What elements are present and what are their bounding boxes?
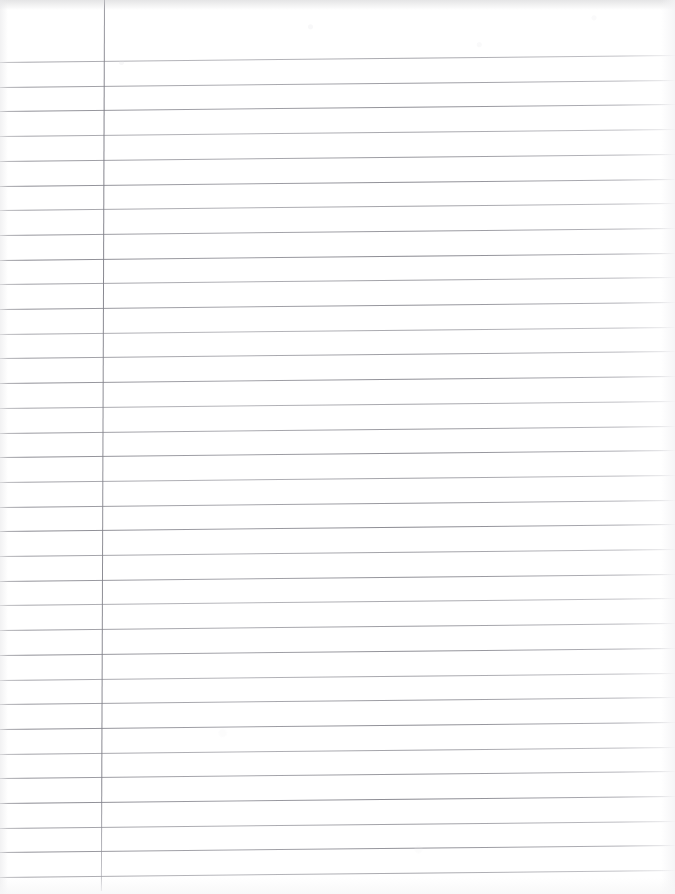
ruled-line — [0, 500, 675, 508]
ruled-line — [0, 598, 675, 606]
ruled-line — [0, 475, 675, 483]
ruled-line — [0, 821, 675, 829]
vertical-margin-rule — [101, 0, 105, 891]
ruled-line — [0, 796, 675, 804]
paper-grain-overlay — [0, 0, 675, 894]
ruled-line — [0, 55, 675, 63]
ruled-line — [0, 623, 675, 631]
ruled-line — [0, 80, 675, 88]
ruled-line — [0, 747, 675, 755]
ruled-line — [0, 648, 675, 656]
ruled-line — [0, 376, 675, 384]
scan-edge-shadow-bottom — [0, 878, 675, 894]
ruled-line — [0, 253, 675, 261]
ruled-line — [0, 401, 675, 409]
ruled-line — [0, 425, 675, 433]
lined-paper-sheet — [0, 0, 675, 894]
scan-edge-shadow-right — [661, 0, 675, 894]
ruled-line — [0, 203, 675, 211]
scan-viewport — [0, 0, 675, 894]
ruled-line — [0, 574, 675, 582]
scan-edge-shadow-top — [0, 0, 675, 10]
ruled-line — [0, 870, 675, 878]
ruled-line — [0, 672, 675, 680]
ruled-line — [0, 154, 675, 162]
ruled-line — [0, 524, 675, 532]
ruled-line — [0, 351, 675, 359]
ruled-line — [0, 697, 675, 705]
ruled-line — [0, 450, 675, 458]
ruled-line — [0, 845, 675, 853]
ruled-line — [0, 104, 675, 112]
ruled-line — [0, 302, 675, 310]
ruled-line — [0, 129, 675, 137]
scan-edge-shadow-left — [0, 0, 8, 894]
ruled-line — [0, 228, 675, 236]
ruled-line — [0, 722, 675, 730]
ruled-line — [0, 327, 675, 335]
ruled-line — [0, 178, 675, 186]
ruled-line — [0, 771, 675, 779]
ruled-line — [0, 277, 675, 285]
ruled-line — [0, 549, 675, 557]
